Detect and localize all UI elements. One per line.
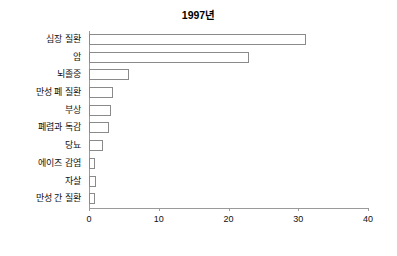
x-axis-tick [368, 208, 369, 211]
bar-row [89, 155, 369, 173]
bar-chart: 1997년 심장 질환암뇌졸중만성 폐 질환부상폐렴과 독감당뇨에이즈 감염자살… [0, 0, 397, 256]
bar [89, 193, 95, 204]
bar-row [89, 190, 369, 208]
bar-row [89, 173, 369, 191]
bar-row [89, 49, 369, 67]
bar [89, 105, 111, 116]
category-axis-labels: 심장 질환암뇌졸중만성 폐 질환부상폐렴과 독감당뇨에이즈 감염자살만성 간 질… [0, 31, 84, 208]
x-axis-tick-label: 0 [86, 214, 91, 224]
bar [89, 52, 249, 63]
bar-row [89, 84, 369, 102]
x-axis-tick [159, 208, 160, 211]
x-axis-tick-label: 10 [154, 214, 164, 224]
x-axis-tick-label: 20 [223, 214, 233, 224]
bar [89, 158, 95, 169]
x-axis-tick-label: 40 [363, 214, 373, 224]
category-label: 에이즈 감염 [0, 155, 84, 173]
category-label: 부상 [0, 102, 84, 120]
category-label: 만성 간 질환 [0, 190, 84, 208]
bars-container [89, 31, 369, 208]
bar [89, 69, 129, 80]
bar [89, 140, 103, 151]
value-axis-ticks: 010203040 [0, 208, 397, 232]
bar-row [89, 102, 369, 120]
category-label: 암 [0, 49, 84, 67]
x-axis-tick [298, 208, 299, 211]
category-label: 심장 질환 [0, 31, 84, 49]
category-label: 폐렴과 독감 [0, 119, 84, 137]
bar-row [89, 119, 369, 137]
bar [89, 34, 306, 45]
x-axis-tick [89, 208, 90, 211]
category-label: 뇌졸중 [0, 66, 84, 84]
bar [89, 176, 96, 187]
bar-row [89, 137, 369, 155]
x-axis-tick [229, 208, 230, 211]
category-label: 당뇨 [0, 137, 84, 155]
category-label: 자살 [0, 173, 84, 191]
bar-row [89, 66, 369, 84]
category-label: 만성 폐 질환 [0, 84, 84, 102]
bar [89, 122, 109, 133]
bar [89, 87, 113, 98]
bar-row [89, 31, 369, 49]
chart-title: 1997년 [0, 9, 397, 21]
x-axis-tick-label: 30 [293, 214, 303, 224]
